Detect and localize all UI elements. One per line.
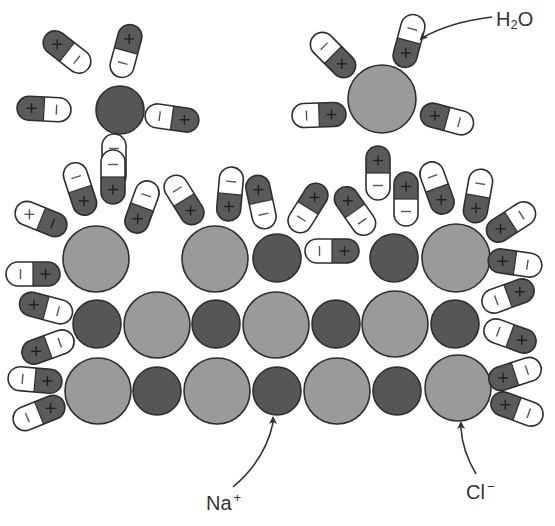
chloride-ion [65, 358, 131, 424]
water-molecule [11, 198, 70, 240]
chloride-ion [422, 224, 490, 292]
water-molecule [305, 27, 360, 82]
sodium-ion [96, 86, 144, 134]
water-label: H2O [496, 9, 533, 31]
water-molecule [101, 150, 125, 204]
water-molecule [366, 146, 390, 200]
water-molecule [7, 366, 63, 395]
water-molecule [9, 392, 68, 434]
water-molecule [107, 22, 144, 80]
minus-sign-icon [56, 105, 57, 115]
sodium-ion [431, 300, 479, 348]
water-molecule [394, 172, 418, 226]
water-molecule [216, 166, 245, 222]
sodium-ion [312, 300, 360, 348]
sodium-ion [370, 234, 418, 282]
sodium-ion [133, 367, 181, 415]
chloride-ion [425, 355, 491, 421]
chloride-pointer-arrow [461, 423, 476, 474]
water-molecule [121, 178, 162, 237]
chloride-ion [362, 291, 428, 357]
chloride-ion [348, 65, 416, 133]
water-molecule [284, 179, 333, 238]
chloride-ion [184, 358, 250, 424]
water-molecule [390, 12, 427, 70]
minus-sign-icon [22, 374, 23, 384]
divider [319, 103, 320, 127]
chloride-ion [124, 292, 190, 358]
negative-end [144, 102, 174, 130]
water-molecule [60, 160, 100, 219]
water-molecule [479, 275, 538, 316]
chloride-ion [182, 226, 248, 292]
water-molecule [244, 173, 279, 231]
water-molecule [481, 315, 540, 356]
water-molecule [482, 197, 540, 247]
nacl-dissolution-diagram [0, 0, 555, 526]
negative-end [513, 251, 543, 279]
chloride-ion-label: Cl− [466, 480, 494, 502]
water-molecule [38, 26, 95, 78]
water-molecule [292, 102, 347, 128]
water-molecule [160, 171, 209, 230]
water-molecule [17, 289, 75, 326]
water-molecule [488, 388, 547, 429]
sodium-ion [73, 300, 121, 348]
water-molecule [486, 354, 545, 394]
sodium-ion [253, 234, 301, 282]
water-molecule [461, 167, 494, 224]
minus-sign-icon [226, 181, 236, 182]
water-molecule [487, 247, 544, 278]
sodium-ion-label: Na+ [206, 491, 241, 513]
sodium-ion [192, 300, 240, 348]
sodium-pointer-arrow [233, 418, 273, 487]
chloride-ion [63, 226, 129, 292]
sodium-ion [253, 367, 301, 415]
water-molecule [305, 239, 359, 263]
water-molecule [19, 326, 78, 367]
water-molecule [6, 262, 60, 286]
chloride-ion [243, 292, 309, 358]
water-molecule [418, 100, 476, 137]
water-pointer-arrow [421, 17, 492, 39]
water-molecule [16, 96, 71, 123]
water-molecule [144, 102, 201, 133]
chloride-ion [304, 358, 370, 424]
sodium-ion [373, 367, 421, 415]
water-molecule [416, 159, 457, 218]
